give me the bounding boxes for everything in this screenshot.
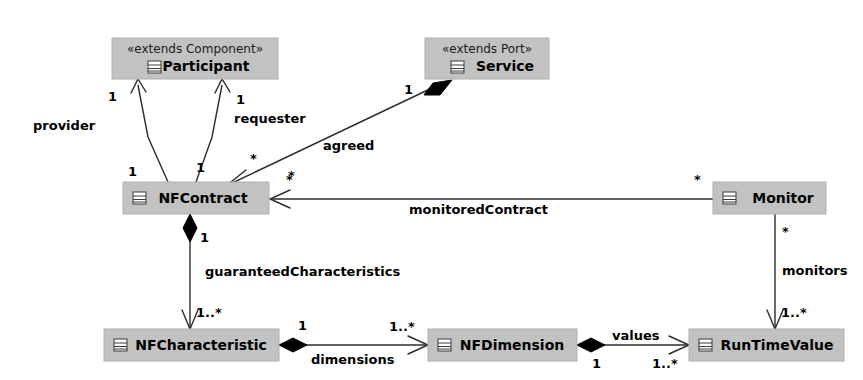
guaranteed-characteristics-label: guaranteedCharacteristics [205, 264, 400, 279]
nfdimension-name: NFDimension [460, 337, 564, 353]
class-icon [148, 61, 161, 73]
diagram-canvas: provider 1 1 requester 1 1 agreed 1 * * … [0, 0, 863, 380]
association-dimensions[interactable]: dimensions 1 1..* [279, 318, 428, 367]
class-node-monitor[interactable]: Monitor [713, 182, 826, 214]
monitored-contract-label: monitoredContract [409, 202, 548, 217]
agreed-composite-diamond [424, 80, 452, 95]
association-monitors[interactable]: monitors * 1..* [767, 214, 848, 329]
participant-stereotype: «extends Component» [127, 42, 263, 56]
requester-label: requester [234, 111, 306, 126]
class-icon [438, 339, 451, 351]
class-node-nfdimension[interactable]: NFDimension [428, 329, 577, 361]
association-monitored-contract[interactable]: monitoredContract * * [270, 172, 713, 217]
association-values[interactable]: values 1 1..* [577, 328, 689, 371]
association-agreed[interactable]: agreed 1 * * [226, 80, 452, 189]
class-icon [133, 192, 146, 204]
monitors-many-multiplicity: 1..* [781, 305, 807, 320]
provider-target-multiplicity: 1 [108, 89, 117, 104]
uml-class-diagram: provider 1 1 requester 1 1 agreed 1 * * … [0, 0, 863, 380]
class-node-nfcharacteristic[interactable]: NFCharacteristic [104, 329, 279, 361]
provider-source-multiplicity: 1 [128, 164, 137, 179]
class-node-participant[interactable]: «extends Component» Participant [112, 38, 278, 79]
participant-name: Participant [163, 58, 250, 74]
values-one-multiplicity: 1 [592, 356, 601, 371]
class-icon [723, 192, 736, 204]
association-guaranteed-characteristics[interactable]: guaranteedCharacteristics 1 1..* [182, 214, 400, 329]
provider-label: provider [33, 118, 96, 133]
values-composite-diamond [577, 338, 605, 352]
values-many-multiplicity: 1..* [652, 356, 678, 371]
agreed-line [228, 88, 432, 185]
monitor-name: Monitor [752, 190, 814, 206]
association-provider[interactable]: provider 1 1 [33, 79, 168, 182]
dimensions-many-multiplicity: 1..* [389, 319, 415, 334]
class-node-runtimevalue[interactable]: RunTimeValue [689, 329, 844, 361]
class-node-service[interactable]: «extends Port» Service [425, 38, 549, 79]
monitors-star-multiplicity: * [782, 224, 789, 239]
dimensions-label: dimensions [311, 352, 395, 367]
service-stereotype: «extends Port» [442, 42, 532, 56]
monitors-label: monitors [782, 263, 848, 278]
values-label: values [612, 328, 660, 343]
requester-target-multiplicity: 1 [236, 92, 245, 107]
guaranteed-composite-diamond [183, 214, 197, 242]
guaranteed-many-multiplicity: 1..* [196, 305, 222, 320]
runtimevalue-name: RunTimeValue [721, 337, 834, 353]
dimensions-one-multiplicity: 1 [298, 318, 307, 333]
nfcharacteristic-name: NFCharacteristic [135, 337, 267, 353]
class-icon [451, 61, 464, 73]
agreed-label: agreed [323, 138, 374, 153]
monitored-contract-contract-multiplicity: * [286, 172, 293, 187]
dimensions-composite-diamond [279, 338, 307, 352]
nfcontract-name: NFContract [158, 190, 247, 206]
class-icon [699, 339, 712, 351]
class-icon [114, 339, 127, 351]
requester-source-multiplicity: 1 [196, 160, 205, 175]
guaranteed-one-multiplicity: 1 [200, 230, 209, 245]
service-name: Service [476, 58, 534, 74]
class-node-nfcontract[interactable]: NFContract [123, 182, 269, 214]
provider-line [138, 85, 168, 182]
monitored-contract-monitor-multiplicity: * [694, 172, 701, 187]
agreed-star-upper: * [250, 151, 257, 166]
agreed-service-multiplicity: 1 [404, 82, 413, 97]
